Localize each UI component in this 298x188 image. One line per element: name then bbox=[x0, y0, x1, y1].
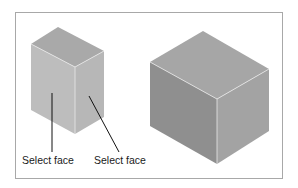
label-select-face-right: Select face bbox=[94, 154, 146, 166]
small-box bbox=[31, 27, 104, 134]
label-select-face-left: Select face bbox=[22, 154, 74, 166]
large-box bbox=[150, 31, 269, 164]
